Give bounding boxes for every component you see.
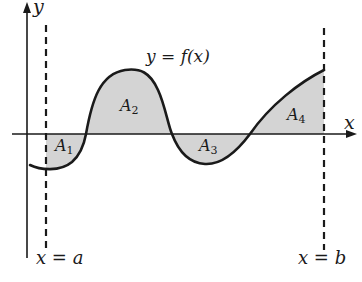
shaded-regions [30,70,324,170]
left-bound-label: x = a [36,249,83,267]
x-axis-label: x [344,113,355,132]
region-name: A [287,105,299,124]
region-name: A [55,136,67,155]
y-axis-arrow-icon [23,2,31,13]
area-under-curve-diagram: y x y = f(x) A1 A2 A3 A4 x = a x = b [0,0,362,282]
region-label-a1: A1 [55,138,74,156]
region-index: 3 [211,144,218,157]
y-axis-label: y [33,0,44,16]
region-index: 2 [132,104,139,117]
curve-label: y = f(x) [146,48,210,65]
region-label-a2: A2 [120,98,139,116]
region-label-a4: A4 [287,107,306,125]
region-name: A [120,96,132,115]
region-index: 1 [67,144,74,157]
region-label-a3: A3 [199,138,218,156]
region-name: A [199,136,211,155]
shaded-area [30,70,324,170]
right-bound-label: x = b [298,249,346,267]
region-index: 4 [299,113,306,126]
